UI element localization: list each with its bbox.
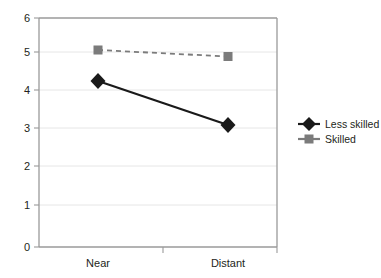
legend-label-less-skilled: Less skilled <box>325 118 379 130</box>
diamond-icon <box>302 117 316 131</box>
x-axis-category-labels: Near Distant <box>86 257 245 269</box>
legend-entry-less-skilled[interactable]: Less skilled <box>298 117 379 131</box>
ytick-label-4: 4 <box>24 84 30 96</box>
ytick-label-2: 2 <box>24 160 30 172</box>
y-axis-ticks <box>34 18 39 247</box>
legend-entry-skilled[interactable]: Skilled <box>298 133 356 145</box>
series-skilled-point-near <box>94 46 103 55</box>
ytick-label-0: 0 <box>24 241 30 253</box>
x-axis-ticks <box>163 247 277 253</box>
chart-legend: Less skilled Skilled <box>298 117 379 145</box>
y-axis-tick-labels: 6 5 4 3 2 1 0 <box>24 12 30 253</box>
xtick-label-near: Near <box>86 257 110 269</box>
chart-figure: 6 5 4 3 2 1 0 Near Distant <box>0 0 381 278</box>
ytick-label-5: 5 <box>24 46 30 58</box>
ytick-label-1: 1 <box>24 199 30 211</box>
ytick-label-6: 6 <box>24 12 30 24</box>
legend-label-skilled: Skilled <box>325 133 356 145</box>
line-chart: 6 5 4 3 2 1 0 Near Distant <box>0 0 381 278</box>
xtick-label-distant: Distant <box>211 257 245 269</box>
square-icon <box>305 135 314 144</box>
series-skilled-point-distant <box>224 52 233 61</box>
ytick-label-3: 3 <box>24 122 30 134</box>
